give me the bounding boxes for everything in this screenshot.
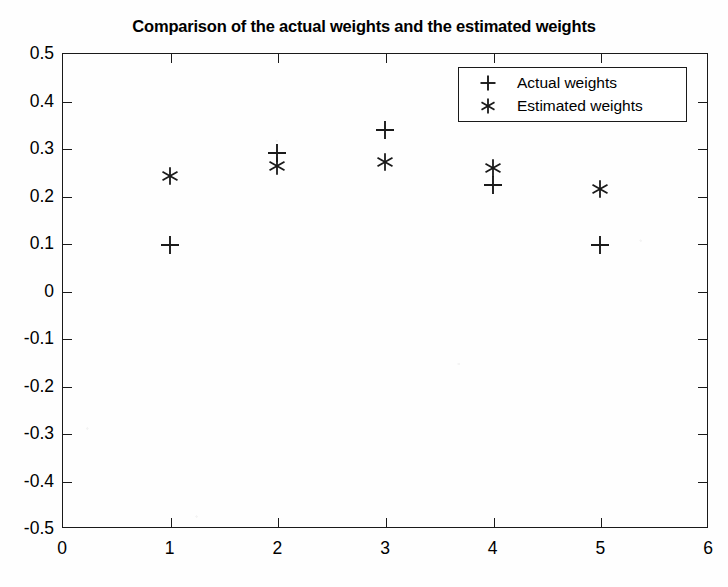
x-tick-label: 6 — [688, 538, 728, 559]
x-tick-label: 1 — [150, 538, 190, 559]
legend-label-actual-weights: Actual weights — [517, 74, 617, 92]
x-tick-label: 0 — [42, 538, 82, 559]
plus-marker-icon — [590, 234, 611, 255]
legend-entry-estimated-weights: Estimated weights — [459, 94, 686, 118]
x-axis-tick — [494, 518, 495, 527]
plus-marker-icon — [375, 120, 396, 141]
asterisk-marker-icon — [267, 156, 288, 177]
plus-marker-icon — [459, 73, 517, 93]
y-axis-tick — [698, 244, 707, 245]
y-axis-tick — [698, 387, 707, 388]
y-axis-tick — [63, 244, 72, 245]
y-tick-label: 0.2 — [0, 185, 54, 206]
y-axis-tick — [698, 197, 707, 198]
y-tick-label: 0.5 — [0, 43, 54, 64]
legend-entry-actual-weights: Actual weights — [459, 71, 686, 95]
asterisk-marker-icon — [482, 157, 503, 178]
x-axis-tick — [601, 518, 602, 527]
y-axis-tick — [63, 387, 72, 388]
asterisk-marker-icon — [375, 151, 396, 172]
y-axis-tick — [63, 197, 72, 198]
y-tick-label: -0.5 — [0, 518, 54, 539]
y-axis-tick — [698, 102, 707, 103]
x-axis-tick — [494, 54, 495, 63]
y-tick-label: -0.1 — [0, 328, 54, 349]
y-axis-tick — [63, 339, 72, 340]
x-axis-tick — [171, 54, 172, 63]
y-tick-label: 0 — [0, 280, 54, 301]
x-tick-label: 4 — [473, 538, 513, 559]
asterisk-marker-icon — [459, 96, 517, 116]
asterisk-marker-icon — [590, 178, 611, 199]
plus-marker-icon — [159, 234, 180, 255]
y-axis-tick — [63, 149, 72, 150]
x-axis-tick — [278, 54, 279, 63]
legend-label-estimated-weights: Estimated weights — [517, 97, 643, 115]
x-tick-label: 5 — [580, 538, 620, 559]
y-tick-label: 0.1 — [0, 233, 54, 254]
y-axis-tick — [63, 482, 72, 483]
y-axis-tick — [698, 149, 707, 150]
x-tick-label: 2 — [257, 538, 297, 559]
y-axis-tick — [63, 434, 72, 435]
chart-legend: Actual weights Estimated weights — [458, 67, 687, 122]
x-axis-tick — [386, 518, 387, 527]
x-tick-label: 3 — [365, 538, 405, 559]
asterisk-marker-icon — [159, 165, 180, 186]
y-axis-tick — [63, 102, 72, 103]
y-tick-label: 0.3 — [0, 138, 54, 159]
x-axis-tick — [601, 54, 602, 63]
y-axis-tick — [698, 339, 707, 340]
y-tick-label: 0.4 — [0, 90, 54, 111]
figure-canvas: Comparison of the actual weights and the… — [0, 0, 728, 587]
x-axis-tick — [278, 518, 279, 527]
y-tick-label: -0.3 — [0, 423, 54, 444]
y-axis-tick — [698, 292, 707, 293]
y-tick-label: -0.2 — [0, 375, 54, 396]
y-axis-tick — [698, 434, 707, 435]
page-title: Comparison of the actual weights and the… — [0, 17, 728, 36]
x-axis-tick — [171, 518, 172, 527]
x-axis-tick — [386, 54, 387, 63]
y-axis-tick — [698, 482, 707, 483]
y-axis-tick — [63, 292, 72, 293]
y-tick-label: -0.4 — [0, 470, 54, 491]
